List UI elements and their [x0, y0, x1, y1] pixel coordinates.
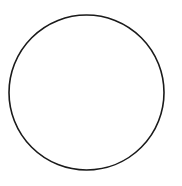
circle-diagram	[0, 0, 182, 186]
circle-outline	[9, 15, 164, 170]
diagram-canvas	[0, 0, 182, 186]
